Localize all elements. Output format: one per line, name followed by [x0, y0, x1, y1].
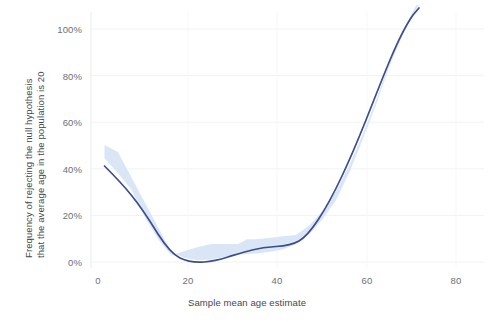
- y-tick-label-100: 100%: [38, 24, 82, 35]
- data-line: [105, 8, 420, 262]
- gridlines-vertical: [188, 12, 456, 268]
- y-tick-label-0: 0%: [38, 257, 82, 268]
- x-axis-title: Sample mean age estimate: [0, 297, 494, 308]
- x-tick-label-0: 0: [95, 275, 100, 286]
- x-tick-label-80: 80: [451, 275, 462, 286]
- confidence-band: [105, 5, 420, 260]
- x-tick-label-60: 60: [362, 275, 373, 286]
- y-axis-title-line-1: Frequency of rejecting the null hypothes…: [23, 78, 34, 258]
- chart-plot-area: [0, 0, 494, 322]
- gridlines-horizontal: [91, 29, 484, 262]
- y-axis-title-line-2: that the average age in the population i…: [35, 71, 46, 258]
- x-tick-label-40: 40: [272, 275, 283, 286]
- chart-container: 100% 80% 60% 40% 20% 0% 0 20 40 60 80 Sa…: [0, 0, 494, 322]
- x-tick-label-20: 20: [183, 275, 194, 286]
- y-axis-title: Frequency of rejecting the null hypothes…: [10, 0, 44, 322]
